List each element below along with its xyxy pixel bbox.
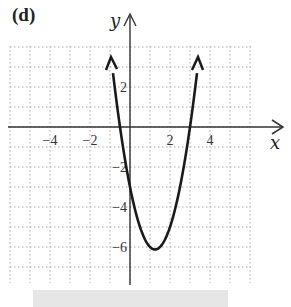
parabola-curve [113,73,197,249]
curve-arrow-left-icon [106,57,117,70]
y-tick-label: −4 [112,200,127,215]
x-tick-label: −2 [83,133,98,148]
parabola-chart: xy−4−2242−2−4−6 [0,0,291,307]
x-tick-label: 4 [207,133,214,148]
curve-arrow-right-icon [192,57,203,70]
x-tick-label: −4 [43,133,58,148]
y-tick-label: −6 [112,240,127,255]
y-tick-label: 2 [120,80,127,95]
y-axis-label: y [109,10,121,31]
x-axis-label: x [270,132,280,153]
x-tick-label: 2 [167,133,174,148]
bottom-strip [33,290,228,307]
